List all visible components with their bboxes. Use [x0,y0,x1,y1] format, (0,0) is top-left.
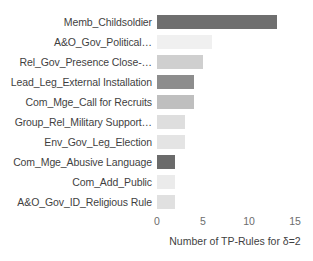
bar [157,35,212,49]
x-tick-label: 0 [154,215,160,227]
bar-row: Com_Mge_Call for Recruits [0,92,313,112]
bar [157,135,185,149]
bar [157,175,175,189]
bar-category-label: Com_Mge_Call for Recruits [26,92,152,112]
bar-category-label: Rel_Gov_Presence Close-… [20,52,152,72]
x-axis: Number of TP-Rules for δ=2 051015 [0,213,313,261]
bar-category-label: A&O_Gov_ID_Religious Rule [17,192,152,212]
bar-row: A&O_Gov_ID_Religious Rule [0,192,313,212]
x-axis-title: Number of TP-Rules for δ=2 [157,235,313,247]
bar-row: Rel_Gov_Presence Close-… [0,52,313,72]
bar-category-label: Com_Mge_Abusive Language [13,152,152,172]
bar-category-label: Memb_Childsoldier [64,12,152,32]
bar-category-label: Com_Add_Public [72,172,152,192]
x-tick-label: 10 [243,215,255,227]
plot-area: Memb_ChildsoldierA&O_Gov_Political…Rel_G… [0,0,313,213]
bar-category-label: Lead_Leg_External Installation [11,72,152,92]
bar-chart: Memb_ChildsoldierA&O_Gov_Political…Rel_G… [0,0,313,261]
bar-category-label: A&O_Gov_Political… [54,32,152,52]
bar [157,95,194,109]
bar [157,55,203,69]
bar-row: A&O_Gov_Political… [0,32,313,52]
bar [157,15,277,29]
x-tick-label: 15 [289,215,301,227]
bar-category-label: Env_Gov_Leg_Election [44,132,152,152]
bar-row: Com_Mge_Abusive Language [0,152,313,172]
bar-row: Group_Rel_Military Support… [0,112,313,132]
x-tick-label: 5 [200,215,206,227]
bar-row: Com_Add_Public [0,172,313,192]
bar [157,75,194,89]
bar-row: Env_Gov_Leg_Election [0,132,313,152]
bar [157,155,175,169]
bar [157,195,175,209]
bar-row: Lead_Leg_External Installation [0,72,313,92]
bar-category-label: Group_Rel_Military Support… [15,112,152,132]
bar [157,115,185,129]
bar-row: Memb_Childsoldier [0,12,313,32]
